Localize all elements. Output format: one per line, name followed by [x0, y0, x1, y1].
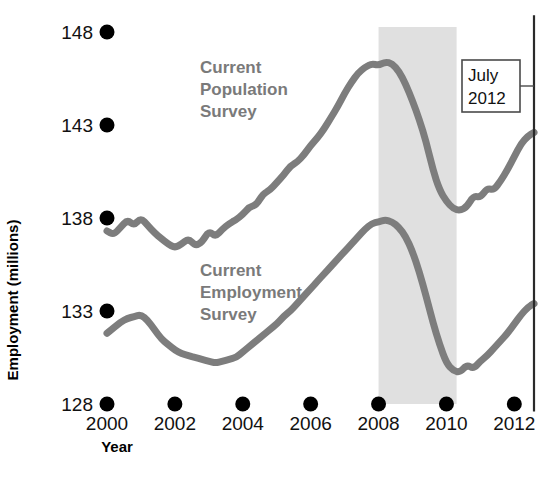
x-tick-dot-2010 [439, 397, 454, 412]
x-tick-dot-2012 [507, 397, 522, 412]
july-2012-callout-line-1: July [468, 66, 499, 85]
y-tick-dot-133 [100, 304, 115, 319]
recession-shading-group [379, 27, 457, 404]
recession-band [379, 27, 457, 404]
x-axis-title: Year [101, 438, 133, 455]
x-tick-label-2002: 2002 [154, 413, 196, 434]
x-tick-dot-2008 [371, 397, 386, 412]
x-tick-label-2012: 2012 [493, 413, 535, 434]
y-tick-label-138: 138 [61, 208, 93, 229]
y-tick-label-143: 143 [61, 115, 93, 136]
x-tick-label-2008: 2008 [357, 413, 399, 434]
y-tick-label-148: 148 [61, 22, 93, 43]
employment-chart: 128133138143148 200020022004200620082010… [0, 0, 549, 477]
y-tick-dot-138 [100, 211, 115, 226]
series-inline-labels-group: CurrentPopulationSurveyCurrentEmployment… [200, 58, 302, 324]
series-label-current-employment-survey-line-2: Employment [200, 283, 302, 302]
x-tick-label-2010: 2010 [425, 413, 467, 434]
series-label-current-population-survey-line-3: Survey [200, 102, 257, 121]
x-tick-label-2004: 2004 [222, 413, 265, 434]
y-axis-ticks-group: 128133138143148 [61, 22, 114, 415]
series-label-current-employment-survey-line-3: Survey [200, 305, 257, 324]
x-tick-dot-2004 [235, 397, 250, 412]
x-tick-label-2006: 2006 [290, 413, 332, 434]
y-tick-label-128: 128 [61, 394, 93, 415]
y-axis-title: Employment (millions) [4, 220, 21, 381]
x-tick-label-2000: 2000 [86, 413, 128, 434]
y-tick-label-133: 133 [61, 301, 93, 322]
y-tick-dot-128 [100, 397, 115, 412]
series-label-current-population-survey-line-1: Current [200, 58, 262, 77]
x-axis-ticks-group: 2000200220042006200820102012 [86, 397, 536, 435]
y-tick-dot-148 [100, 25, 115, 40]
chart-canvas: 128133138143148 200020022004200620082010… [0, 0, 549, 477]
series-label-current-employment-survey-line-1: Current [200, 261, 262, 280]
series-label-current-population-survey-line-2: Population [200, 80, 288, 99]
y-tick-dot-143 [100, 118, 115, 133]
x-tick-dot-2002 [167, 397, 182, 412]
july-2012-callout-line-2: 2012 [468, 89, 506, 108]
callout-group: July2012 [462, 60, 534, 112]
x-tick-dot-2006 [303, 397, 318, 412]
